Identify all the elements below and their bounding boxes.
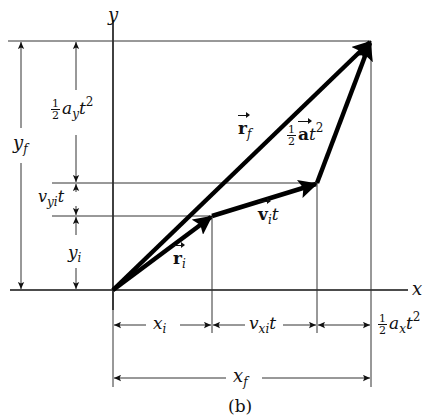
x-axis-label: x bbox=[412, 280, 422, 298]
vector-r-f bbox=[113, 42, 370, 290]
label-y-f: yf bbox=[13, 134, 28, 155]
label-half-a-t2: 12at2 bbox=[287, 122, 324, 147]
label-vyi-t: vyit bbox=[38, 189, 64, 208]
label-half-ay-t2: 12ayt2 bbox=[51, 96, 93, 121]
label-x-f: xf bbox=[233, 367, 248, 388]
label-v-i-t: vit bbox=[258, 206, 279, 226]
label-y-i: yi bbox=[68, 244, 81, 264]
label-x-i: xi bbox=[153, 315, 166, 335]
fraction-half: 12 bbox=[51, 98, 60, 121]
figure-caption: (b) bbox=[228, 398, 252, 415]
vector-half-a-t2 bbox=[317, 43, 370, 183]
label-r-f: rf bbox=[238, 120, 251, 140]
label-half-ax-t2: 12axt2 bbox=[378, 311, 420, 336]
vector-r-i bbox=[113, 217, 211, 290]
label-vxi-t: vxit bbox=[249, 315, 276, 335]
y-axis-label: y bbox=[108, 6, 118, 24]
kinematics-vector-diagram bbox=[0, 0, 438, 419]
fraction-half: 12 bbox=[287, 124, 296, 147]
label-r-i: ri bbox=[173, 250, 186, 270]
fraction-half: 12 bbox=[378, 313, 387, 336]
